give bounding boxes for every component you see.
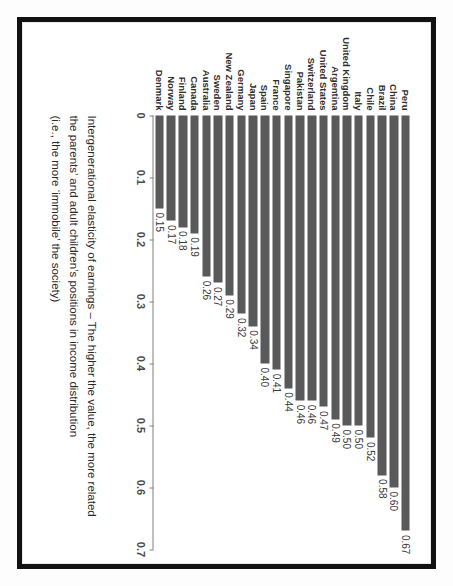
bar <box>155 115 163 208</box>
category-label: Argentina <box>329 66 340 110</box>
category-label: Sweden <box>212 74 223 110</box>
bar <box>389 115 397 487</box>
axis-tick-label: 0.5 <box>134 417 146 432</box>
axis-tick-label: 0 <box>134 112 146 118</box>
bar <box>202 115 210 276</box>
bar-value-label: 0.67 <box>400 534 411 553</box>
axis-tick-label: 0.4 <box>134 355 146 370</box>
axis-tick <box>149 239 153 240</box>
frame-inner: 0.67Peru0.60China0.58Brazil0.52Chile0.50… <box>22 22 431 564</box>
bar-value-label: 0.52 <box>364 441 375 460</box>
axis-tick <box>149 487 153 488</box>
bar <box>366 115 374 437</box>
bar <box>342 115 350 425</box>
bar-chart: 0.67Peru0.60China0.58Brazil0.52Chile0.50… <box>24 23 429 563</box>
bar-value-label: 0.50 <box>341 429 352 448</box>
category-label: France <box>271 79 282 110</box>
category-label: Brazil <box>376 84 387 110</box>
category-label: United Kingdom <box>341 37 352 110</box>
bar <box>237 115 245 313</box>
bar-value-label: 0.49 <box>329 423 340 442</box>
axis-tick <box>149 549 153 550</box>
category-label: Japan <box>247 83 258 110</box>
category-label: Finland <box>177 76 188 110</box>
bar-value-label: 0.40 <box>259 367 270 386</box>
bar <box>260 115 268 363</box>
category-label: Peru <box>400 89 411 110</box>
bar <box>354 115 362 425</box>
category-label: Singapore <box>282 64 293 110</box>
value-axis-line <box>152 115 153 549</box>
category-label: Canada <box>189 76 200 110</box>
bar-value-label: 0.47 <box>318 410 329 429</box>
bar-value-label: 0.29 <box>224 299 235 318</box>
page-background: 0.67Peru0.60China0.58Brazil0.52Chile0.50… <box>0 0 453 586</box>
bar <box>272 115 280 369</box>
axis-tick-label: 0.3 <box>134 293 146 308</box>
bar-value-label: 0.41 <box>271 373 282 392</box>
category-label: Norway <box>165 76 176 110</box>
bar <box>295 115 303 400</box>
caption-line-1: Intergenerational elasticity of earnings… <box>81 115 99 535</box>
category-label: Chile <box>364 87 375 110</box>
bar-value-label: 0.17 <box>165 224 176 243</box>
category-label: Pakistan <box>294 71 305 110</box>
category-label: United States <box>318 49 329 110</box>
bar-value-label: 0.60 <box>388 491 399 510</box>
bar-value-label: 0.44 <box>282 392 293 411</box>
chart-caption: Intergenerational elasticity of earnings… <box>46 115 99 535</box>
axis-tick <box>149 301 153 302</box>
category-label: China <box>388 84 399 110</box>
axis-tick <box>149 177 153 178</box>
category-label: Spain <box>259 84 270 110</box>
bar-value-label: 0.46 <box>294 404 305 423</box>
bar-value-label: 0.46 <box>306 404 317 423</box>
bar-value-label: 0.27 <box>212 286 223 305</box>
category-label: Germany <box>235 69 246 110</box>
category-label: Italy <box>353 91 364 110</box>
bar-value-label: 0.19 <box>189 237 200 256</box>
bar <box>178 115 186 227</box>
bar <box>166 115 174 220</box>
caption-line-3: (i.e., the more ‘immobile’ the society) <box>46 115 64 535</box>
category-label: New Zealand <box>224 52 235 110</box>
category-label: Denmark <box>153 69 164 110</box>
axis-tick <box>149 115 153 116</box>
bar-value-label: 0.15 <box>153 212 164 231</box>
bar-value-label: 0.18 <box>177 231 188 250</box>
bar-value-label: 0.58 <box>376 479 387 498</box>
bar-value-label: 0.26 <box>200 280 211 299</box>
axis-tick-label: 0.1 <box>134 169 146 184</box>
bar-value-label: 0.34 <box>247 330 258 349</box>
axis-tick-label: 0.7 <box>134 541 146 556</box>
axis-tick <box>149 425 153 426</box>
bar <box>401 115 409 530</box>
bar <box>213 115 221 282</box>
axis-tick <box>149 363 153 364</box>
bar <box>377 115 385 475</box>
bar <box>331 115 339 419</box>
category-label: Australia <box>200 69 211 110</box>
axis-tick-label: 0.6 <box>134 479 146 494</box>
bar <box>319 115 327 406</box>
rotated-chart-wrapper: 0.67Peru0.60China0.58Brazil0.52Chile0.50… <box>24 23 429 563</box>
caption-line-2: the parents’ and adult children’s positi… <box>63 115 81 535</box>
bar <box>190 115 198 233</box>
category-label: Switzerland <box>306 57 317 110</box>
bar <box>225 115 233 295</box>
bar-value-label: 0.32 <box>235 317 246 336</box>
bar-value-label: 0.50 <box>353 429 364 448</box>
bar <box>307 115 315 400</box>
photo-frame: 0.67Peru0.60China0.58Brazil0.52Chile0.50… <box>17 17 436 569</box>
axis-tick-label: 0.2 <box>134 231 146 246</box>
bar <box>284 115 292 388</box>
bar <box>248 115 256 326</box>
